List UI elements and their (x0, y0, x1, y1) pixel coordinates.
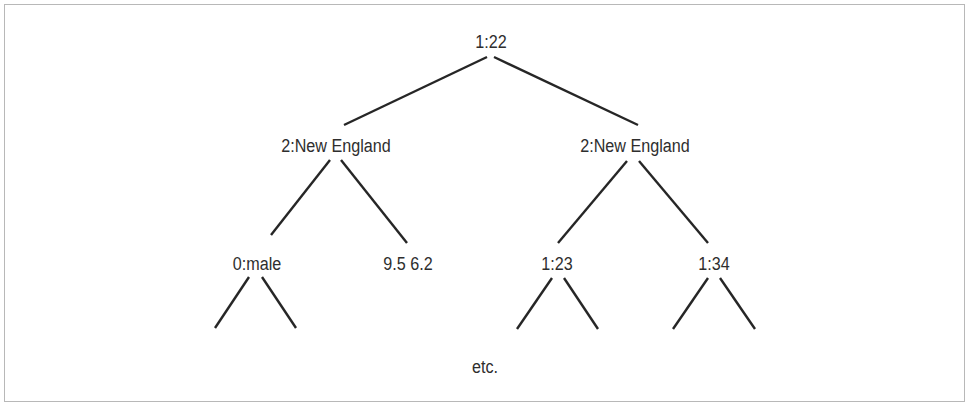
node-right-right-label: 1:34 (698, 253, 730, 275)
node-leaf-values-label: 9.5 6.2 (383, 253, 432, 275)
edge-right-child-to-right-left (558, 161, 627, 243)
node-root-label: 1:22 (475, 31, 506, 53)
edge-left-child-to-left-left (271, 160, 330, 235)
node-right-child-label: 2:New England (580, 135, 689, 157)
edge-right-right-continuation-left (673, 278, 708, 329)
node-left-child-label: 2:New England (281, 135, 390, 157)
node-left-left-label: 0:male (233, 253, 282, 275)
edge-root-to-right-child (494, 57, 638, 125)
edge-left-left-continuation-right (262, 277, 296, 328)
edge-right-child-to-right-right (639, 161, 708, 243)
edge-right-left-continuation-left (517, 278, 552, 329)
edge-right-left-continuation-right (564, 278, 598, 329)
edge-right-right-continuation-right (720, 278, 755, 329)
edge-left-child-to-leaf (341, 160, 407, 243)
etc-note: etc. (472, 356, 498, 378)
edge-root-to-left-child (344, 57, 487, 125)
tree-diagram: 1:22 2:New England 2:New England 0:male … (0, 0, 974, 408)
node-right-left-label: 1:23 (541, 253, 573, 275)
edge-left-left-continuation-left (215, 277, 249, 328)
